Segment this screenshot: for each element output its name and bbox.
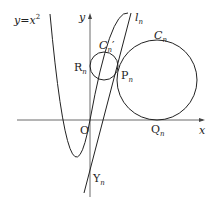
point-y-label: Yn bbox=[93, 173, 105, 187]
circle-cn-prime-mark: ′ bbox=[112, 39, 115, 52]
diagram: y=x2 y x O ln Cn Cn′ Rn Pn Qn Yn bbox=[0, 0, 215, 211]
point-q-label: Qn bbox=[151, 124, 165, 138]
line-label-sub: n bbox=[139, 18, 144, 26]
y-axis-label: y bbox=[79, 12, 85, 23]
circle-cn-sub: n bbox=[162, 36, 167, 44]
point-r-label: Rn bbox=[74, 62, 87, 76]
curve-label: y=x2 bbox=[14, 14, 40, 26]
point-p-label: Pn bbox=[121, 70, 133, 84]
point-r-sub: n bbox=[82, 68, 87, 76]
point-q-sub: n bbox=[160, 130, 165, 138]
x-axis-arrow-icon bbox=[199, 118, 205, 122]
circle-cn-label: Cn bbox=[154, 30, 167, 44]
figure-svg bbox=[0, 0, 215, 211]
point-p-sub: n bbox=[128, 76, 133, 84]
x-axis-label: x bbox=[199, 125, 205, 136]
origin-label: O bbox=[80, 125, 89, 136]
circle-cn-prime-label: Cn′ bbox=[99, 40, 114, 54]
point-q-text: Q bbox=[151, 123, 160, 136]
y-axis-arrow-icon bbox=[88, 13, 92, 19]
curve-exp: 2 bbox=[36, 13, 40, 21]
point-y-sub: n bbox=[100, 179, 105, 187]
line-label: ln bbox=[135, 12, 143, 26]
curve-label-text: y=x bbox=[14, 14, 36, 27]
